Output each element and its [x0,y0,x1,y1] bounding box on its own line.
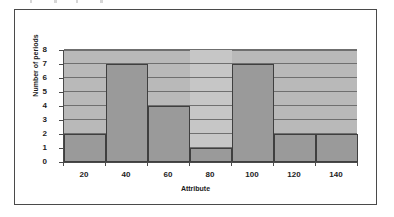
histogram-bar[interactable] [232,64,274,162]
x-tick-label: 20 [64,170,104,179]
gridline [190,119,232,120]
x-tick-mark [147,162,148,166]
gridline [190,77,232,78]
y-tick-label: 2 [21,130,47,138]
x-tick-label: 120 [274,170,314,179]
histogram-bar[interactable] [316,134,358,162]
y-tick-mark [59,134,63,135]
gridline [190,63,232,64]
y-tick-mark [59,50,63,51]
bin-background-cell [190,50,232,162]
x-tick-mark [189,162,190,166]
x-tick-mark [315,162,316,166]
histogram-bar[interactable] [190,148,232,162]
y-tick-label: 5 [21,88,47,96]
gridline [190,133,232,134]
plot-area [63,50,357,162]
y-axis-line [63,50,64,163]
x-tick-mark [231,162,232,166]
x-tick-mark [105,162,106,166]
histogram-bar[interactable] [106,64,148,162]
y-tick-mark [59,120,63,121]
x-axis-line [63,162,358,163]
y-tick-mark [59,92,63,93]
histogram-chart: Number of periods Attribute 012345678204… [15,10,376,204]
x-axis-title: Attribute [15,185,376,192]
y-tick-mark [59,148,63,149]
y-tick-label: 1 [21,144,47,152]
x-tick-label: 60 [148,170,188,179]
gridline [190,49,232,50]
gridline [190,91,232,92]
x-tick-label: 140 [316,170,356,179]
y-tick-label: 4 [21,102,47,110]
x-tick-mark [273,162,274,166]
y-tick-label: 8 [21,46,47,54]
y-tick-label: 6 [21,74,47,82]
y-tick-label: 7 [21,60,47,68]
y-tick-mark [59,78,63,79]
chart-figure: Number of periods Attribute 012345678204… [14,9,377,205]
gridline [190,105,232,106]
x-tick-label: 80 [190,170,230,179]
x-tick-label: 40 [106,170,146,179]
cropped-text-artifact [24,0,154,3]
y-tick-mark [59,64,63,65]
histogram-bar[interactable] [64,134,106,162]
histogram-bar[interactable] [148,106,190,162]
y-tick-label: 3 [21,116,47,124]
x-tick-label: 100 [232,170,272,179]
x-tick-mark [357,162,358,166]
histogram-bar[interactable] [274,134,316,162]
x-tick-mark [63,162,64,166]
y-tick-mark [59,106,63,107]
y-tick-label: 0 [21,158,47,166]
